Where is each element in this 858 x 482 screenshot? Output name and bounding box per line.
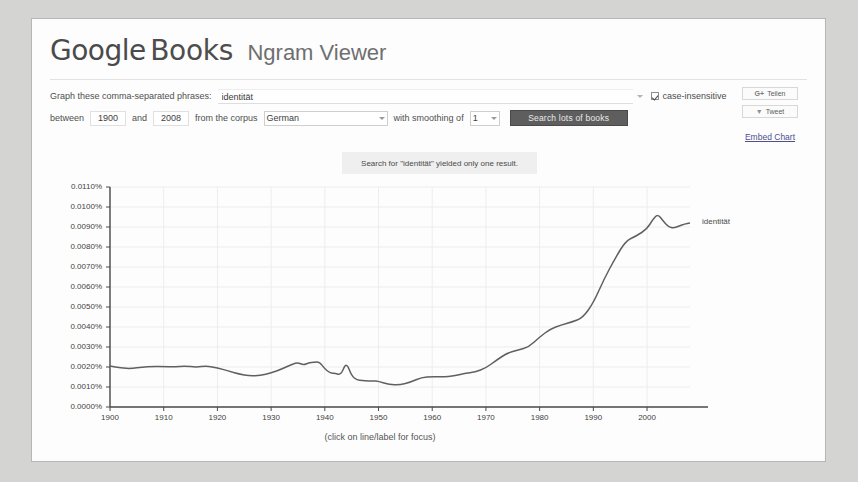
x-axis-tick-label: 1980 <box>520 413 560 422</box>
google-logo: Google <box>50 34 146 67</box>
corpus-label: from the corpus <box>195 113 258 123</box>
end-year-input[interactable] <box>153 111 189 126</box>
y-axis-tick-label: 0.0050% <box>54 302 102 311</box>
phrases-label: Graph these comma-separated phrases: <box>50 91 212 101</box>
books-logo: Books <box>150 34 233 67</box>
twitter-share-button[interactable]: ▼ Tweet <box>742 105 798 118</box>
smoothing-value: 1 <box>473 113 478 123</box>
smoothing-select[interactable]: 1 <box>470 111 500 126</box>
y-axis-tick-label: 0.0100% <box>54 202 102 211</box>
ngram-viewer-page: Google Books Ngram Viewer Graph these co… <box>0 0 858 482</box>
checkmark-icon <box>651 92 659 100</box>
search-button[interactable]: Search lots of books <box>510 110 628 126</box>
ngram-chart: 0.0000%0.0010%0.0020%0.0030%0.0040%0.005… <box>50 179 810 449</box>
y-axis-tick-label: 0.0000% <box>54 402 102 411</box>
phrases-input[interactable] <box>218 89 633 104</box>
chevron-down-icon[interactable] <box>637 95 643 98</box>
case-insensitive-label: case-insensitive <box>663 91 727 101</box>
header-divider <box>50 79 807 80</box>
series-label[interactable]: identität <box>702 217 730 226</box>
google-plus-icon: G+ <box>755 90 765 97</box>
embed-chart-link[interactable]: Embed Chart <box>745 132 795 142</box>
twitter-bird-icon: ▼ <box>756 108 763 115</box>
y-axis-tick-label: 0.0070% <box>54 262 102 271</box>
plot-area[interactable] <box>50 179 810 424</box>
x-axis-tick-label: 1990 <box>573 413 613 422</box>
corpus-value: German <box>267 113 300 123</box>
x-axis-tick-label: 1900 <box>90 413 130 422</box>
ngram-viewer-title: Ngram Viewer <box>247 40 386 65</box>
between-label: between <box>50 113 84 123</box>
x-axis-tick-label: 2000 <box>627 413 667 422</box>
search-result-notice: Search for "identität" yielded only one … <box>342 152 537 174</box>
page-sheet: Google Books Ngram Viewer Graph these co… <box>31 18 826 462</box>
y-axis-tick-label: 0.0040% <box>54 322 102 331</box>
corpus-select[interactable]: German <box>264 111 388 126</box>
y-axis-tick-label: 0.0080% <box>54 242 102 251</box>
x-axis-tick-label: 1910 <box>144 413 184 422</box>
x-axis-tick-label: 1950 <box>359 413 399 422</box>
x-axis-tick-label: 1930 <box>251 413 291 422</box>
x-axis-tick-label: 1920 <box>197 413 237 422</box>
y-axis-tick-label: 0.0090% <box>54 222 102 231</box>
smoothing-label: with smoothing of <box>394 113 464 123</box>
y-axis-tick-label: 0.0110% <box>54 182 102 191</box>
chart-svg <box>50 179 810 424</box>
y-axis-tick-label: 0.0060% <box>54 282 102 291</box>
y-axis-tick-label: 0.0030% <box>54 342 102 351</box>
range-row: between and from the corpus German with … <box>50 107 810 129</box>
y-axis-tick-label: 0.0010% <box>54 382 102 391</box>
start-year-input[interactable] <box>90 111 126 126</box>
google-plus-label: Teilen <box>767 90 785 97</box>
phrases-row: Graph these comma-separated phrases: cas… <box>50 85 810 107</box>
and-label: and <box>132 113 147 123</box>
case-insensitive-checkbox[interactable]: case-insensitive <box>651 91 727 101</box>
chevron-down-icon <box>379 117 385 120</box>
chevron-down-icon <box>491 117 497 120</box>
x-axis-tick-label: 1940 <box>305 413 345 422</box>
x-axis-tick-label: 1960 <box>412 413 452 422</box>
query-form: Graph these comma-separated phrases: cas… <box>50 85 810 129</box>
site-header: Google Books Ngram Viewer <box>50 34 386 67</box>
y-axis-tick-label: 0.0020% <box>54 362 102 371</box>
google-plus-share-button[interactable]: G+ Teilen <box>742 87 798 100</box>
chart-caption: (click on line/label for focus) <box>50 432 710 442</box>
x-axis-tick-label: 1970 <box>466 413 506 422</box>
share-column: G+ Teilen ▼ Tweet Embed Chart <box>731 87 809 144</box>
twitter-label: Tweet <box>766 108 785 115</box>
